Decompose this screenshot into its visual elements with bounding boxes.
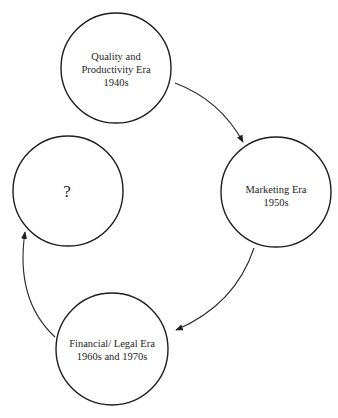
node-unknown-era: ? [13,136,123,246]
arrow-marketing-to-financial [176,248,254,330]
financial-era-line-1: Financial/ Legal Era [69,338,155,349]
marketing-era-line-1: Marketing Era [246,184,307,195]
arrow-quality-to-marketing [175,83,243,142]
marketing-era-line-2: 1950s [263,197,288,208]
arrow-financial-to-unknown [23,232,55,337]
financial-legal-era-circle [56,293,168,405]
quality-era-line-3: 1940s [103,77,128,88]
unknown-era-question-mark: ? [63,182,71,201]
financial-era-line-2: 1960s and 1970s [77,351,148,362]
quality-era-line-1: Quality and [91,51,141,62]
node-marketing-era: Marketing Era 1950s [221,137,331,247]
quality-era-line-2: Productivity Era [81,64,150,75]
node-quality-era: Quality and Productivity Era 1940s [61,13,171,123]
era-cycle-diagram: Quality and Productivity Era 1940s Marke… [0,0,338,418]
node-financial-legal-era: Financial/ Legal Era 1960s and 1970s [56,293,168,405]
